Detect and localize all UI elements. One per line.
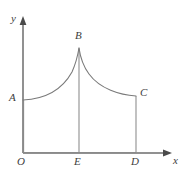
- point-label-a: A: [9, 92, 16, 103]
- point-label-b: B: [75, 30, 82, 41]
- math-figure: y x O A B C D E: [0, 0, 184, 173]
- y-axis-arrowhead: [20, 16, 27, 25]
- point-label-o: O: [17, 156, 25, 167]
- curve-branch-AB: [23, 48, 79, 100]
- point-label-d: D: [131, 156, 139, 167]
- x-axis-arrowhead: [163, 150, 172, 157]
- point-label-c: C: [140, 87, 147, 98]
- y-axis-label: y: [11, 13, 16, 24]
- figure-canvas: [0, 0, 184, 173]
- curve-branch-BC: [79, 48, 136, 96]
- x-axis-label: x: [173, 155, 178, 166]
- point-label-e: E: [74, 156, 81, 167]
